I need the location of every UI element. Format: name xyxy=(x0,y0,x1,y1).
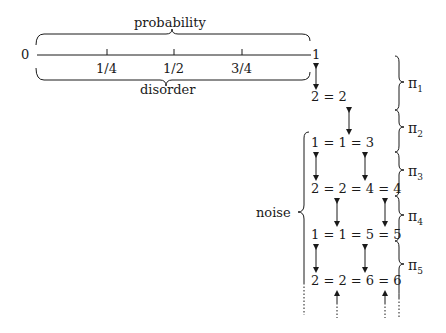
probability-label: probability xyxy=(134,16,206,29)
pi-label-4: π4 xyxy=(408,209,423,229)
pi-label-3: π3 xyxy=(408,164,423,184)
number-line-start-label: 0 xyxy=(21,48,29,61)
sequence-row-4: 1 = 1 = 5 = 5 xyxy=(311,228,402,241)
tick-label-half: 1/2 xyxy=(163,62,184,75)
disorder-label: disorder xyxy=(140,83,195,96)
sequence-row-1: 2 = 2 xyxy=(311,90,347,103)
noise-brace xyxy=(298,132,309,283)
pi-label-1: π1 xyxy=(408,76,423,96)
sequence-row-3: 2 = 2 = 4 = 4 xyxy=(311,182,402,195)
pi-label-5: π5 xyxy=(408,258,423,278)
tick-label-three-quarter: 3/4 xyxy=(231,62,252,75)
pi-label-2: π2 xyxy=(408,121,423,141)
noise-label: noise xyxy=(256,206,291,219)
brace-pi5 xyxy=(395,241,404,298)
probability-brace xyxy=(36,29,310,45)
tick-label-quarter: 1/4 xyxy=(96,62,117,75)
sequence-row-2: 1 = 1 = 3 xyxy=(311,136,374,149)
brace-pi1 xyxy=(395,56,404,110)
sequence-row-5: 2 = 2 = 6 = 6 xyxy=(311,274,402,287)
number-line-end-label: 1 xyxy=(312,48,320,61)
brace-pi2 xyxy=(395,110,404,152)
